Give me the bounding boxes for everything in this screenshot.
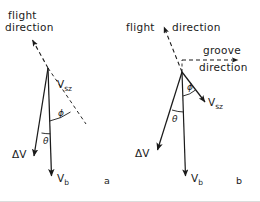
panel-a-theta-label: θ [43, 136, 49, 146]
vector-diagram-figure: flight direction Vsz ϕ θ ΔV Vb a flight … [0, 0, 260, 202]
panel-b-theta-label: θ [172, 114, 178, 124]
panel-b-vsz-label: Vsz [208, 96, 223, 112]
panel-b-vb-vector [182, 72, 186, 176]
panel-a-vsz-label: Vsz [57, 78, 72, 94]
panel-a-vb-label: Vb [57, 172, 69, 188]
panel-b-vb-label-sub: b [198, 178, 203, 187]
panel-a-flight-direction-label-line1: flight [8, 9, 37, 21]
panel-a-vb-vector [48, 68, 52, 176]
panel-b-groove-direction-label-line1: groove [203, 44, 241, 56]
panel-a-vb-label-sub: b [64, 178, 69, 187]
panel-a-vsz-label-sub: sz [64, 84, 72, 93]
panel-b-vsz-vector [182, 72, 205, 102]
panel-a-flight-direction-arrow [33, 40, 49, 68]
panel-b-phi-label: ϕ [187, 82, 193, 92]
panel-b-delta-v-vector [158, 72, 183, 150]
panel-a-delta-v-label: ΔV [12, 148, 26, 160]
panel-b-theta-angle-arc [172, 110, 184, 112]
panel-b-direction-label: direction [172, 21, 221, 33]
panel-b-vb-label: Vb [191, 172, 203, 188]
panel-a-vsz-dashed-line [48, 68, 86, 124]
panel-a-phi-label: ϕ [58, 108, 64, 118]
panel-a-flight-direction-label-line2: direction [5, 21, 54, 33]
panel-b-delta-v-label: ΔV [135, 147, 149, 159]
panel-b-caption: b [236, 176, 242, 187]
panel-b-flight-direction-arrow [164, 27, 182, 72]
panel-a-caption: a [104, 176, 110, 187]
panel-a-theta-angle-arc [42, 133, 51, 134]
panel-b-vsz-label-sub: sz [215, 102, 223, 111]
panel-b-flight-label: flight [126, 21, 155, 33]
panel-b-groove-direction-label-line2: direction [199, 61, 248, 73]
